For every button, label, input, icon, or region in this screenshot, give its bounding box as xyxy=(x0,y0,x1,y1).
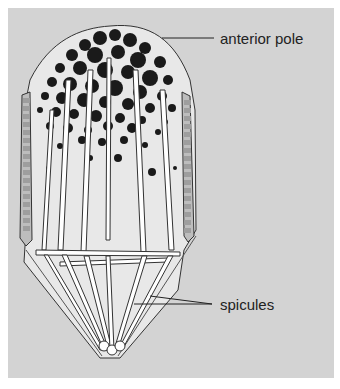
cell-diagram xyxy=(0,0,340,389)
left-band xyxy=(20,92,32,246)
anterior-pole-label: anterior pole xyxy=(220,30,303,47)
spicules-label: spicules xyxy=(220,296,274,313)
